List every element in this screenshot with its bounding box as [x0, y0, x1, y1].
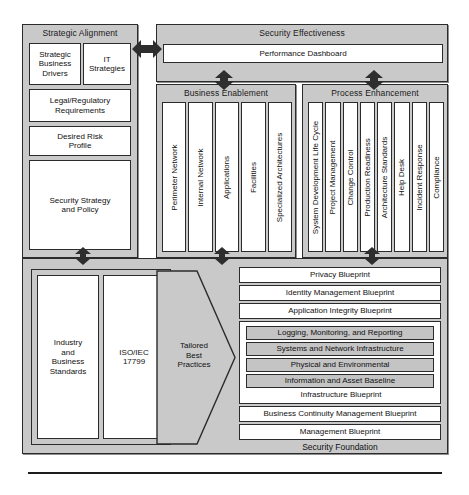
infrastructure-child-2[interactable]: Physical and Environmental — [246, 358, 434, 372]
blueprint-item-label-0: Privacy Blueprint — [310, 270, 370, 280]
process-enhancement-item-label-3: Production Readiness — [363, 138, 372, 216]
blueprint-stack: Privacy BlueprintIdentity Management Blu… — [239, 267, 441, 447]
process-enhancement-item-1[interactable]: Project Management — [325, 102, 340, 252]
connector-arrow-down-business-enablement — [211, 70, 237, 90]
blueprint-item-label-2: Application Integrity Blueprint — [288, 306, 392, 316]
connector-arrow-horizontal-strategic — [132, 36, 162, 62]
process-enhancement-item-4[interactable]: Architecture Standards — [377, 102, 392, 252]
infrastructure-blueprint-box[interactable]: Logging, Monitoring, and ReportingSystem… — [239, 321, 441, 404]
infrastructure-child-3[interactable]: Information and Asset Baseline — [246, 374, 434, 388]
business-enablement-item-3[interactable]: Facilities — [241, 102, 265, 252]
business-enablement-panel: Business Enablement Perimeter NetworkInt… — [156, 84, 296, 258]
strategic-business-drivers-label: StrategicBusinessDrivers — [39, 50, 71, 79]
iso-iec-17799-label: ISO/IEC17799 — [119, 348, 148, 367]
performance-dashboard-label: Performance Dashboard — [259, 49, 346, 59]
desired-risk-profile-label: Desired RiskProfile — [57, 132, 102, 151]
process-enhancement-item-label-6: Incident Response — [415, 144, 424, 210]
business-enablement-item-2[interactable]: Applications — [215, 102, 239, 252]
strategic-business-drivers-box[interactable]: StrategicBusinessDrivers — [29, 43, 81, 85]
process-enhancement-item-label-0: System Development Life Cycle — [311, 120, 320, 233]
infrastructure-child-label-3: Information and Asset Baseline — [285, 376, 395, 386]
it-strategies-box[interactable]: ITStrategies — [83, 43, 131, 85]
blueprint-item-label-1: Identity Management Blueprint — [286, 288, 395, 298]
connector-arrow-down-be-foundation — [211, 247, 233, 265]
business-enablement-item-label-4: Specialized Architectures — [275, 132, 284, 221]
connector-arrow-down-strategic-foundation — [72, 247, 94, 265]
infrastructure-child-label-2: Physical and Environmental — [291, 360, 390, 370]
footer-rule — [28, 472, 442, 474]
tailored-best-practices-label: TailoredBestPractices — [178, 341, 211, 369]
process-enhancement-item-5[interactable]: Help Desk — [394, 102, 409, 252]
connector-arrow-down-pe-foundation — [361, 247, 383, 265]
infrastructure-child-label-1: Systems and Network Infrastructure — [276, 344, 403, 354]
blueprint-bottom-item-label-1: Management Blueprint — [300, 427, 381, 437]
desired-risk-profile-box[interactable]: Desired RiskProfile — [29, 126, 131, 156]
security-strategy-and-policy-box[interactable]: Security Strategyand Policy — [29, 160, 131, 250]
business-enablement-item-label-0: Perimeter Network — [170, 144, 179, 210]
infrastructure-child-1[interactable]: Systems and Network Infrastructure — [246, 342, 434, 356]
performance-dashboard-box[interactable]: Performance Dashboard — [163, 44, 443, 63]
business-enablement-item-label-2: Applications — [222, 155, 231, 198]
legal-regulatory-requirements-box[interactable]: Legal/RegulatoryRequirements — [29, 89, 131, 122]
process-enhancement-item-label-2: Change Control — [346, 149, 355, 205]
process-enhancement-item-label-7: Compliance — [432, 156, 441, 198]
process-enhancement-item-6[interactable]: Incident Response — [412, 102, 427, 252]
business-enablement-item-4[interactable]: Specialized Architectures — [268, 102, 292, 252]
security-effectiveness-panel: Security Effectiveness Performance Dashb… — [156, 24, 448, 82]
security-effectiveness-title: Security Effectiveness — [157, 25, 447, 39]
blueprint-bottom-item-0[interactable]: Business Continuity Management Blueprint — [239, 406, 441, 422]
process-enhancement-item-3[interactable]: Production Readiness — [360, 102, 375, 252]
security-foundation-label: Security Foundation — [239, 442, 441, 452]
blueprint-bottom-item-label-0: Business Continuity Management Blueprint — [264, 409, 417, 419]
strategic-alignment-title: Strategic Alignment — [23, 25, 137, 39]
process-enhancement-item-label-4: Architecture Standards — [380, 136, 389, 217]
blueprint-bottom-item-1[interactable]: Management Blueprint — [239, 424, 441, 440]
standards-group: IndustryandBusinessStandards ISO/IEC1779… — [31, 269, 171, 445]
it-strategies-label: ITStrategies — [89, 55, 125, 74]
infrastructure-child-0[interactable]: Logging, Monitoring, and Reporting — [246, 326, 434, 340]
industry-business-standards-box[interactable]: IndustryandBusinessStandards — [37, 275, 99, 439]
tailored-best-practices-label-wrap: TailoredBestPractices — [163, 341, 225, 370]
process-enhancement-item-label-5: Help Desk — [397, 159, 406, 196]
infrastructure-child-label-0: Logging, Monitoring, and Reporting — [278, 328, 403, 338]
business-enablement-item-label-1: Internal Network — [196, 148, 205, 206]
process-enhancement-panel: Process Enhancement System Development L… — [302, 84, 448, 258]
process-enhancement-item-7[interactable]: Compliance — [429, 102, 444, 252]
blueprint-item-2[interactable]: Application Integrity Blueprint — [239, 303, 441, 319]
business-enablement-item-0[interactable]: Perimeter Network — [162, 102, 186, 252]
process-enhancement-item-2[interactable]: Change Control — [343, 102, 358, 252]
strategic-alignment-panel: Strategic Alignment StrategicBusinessDri… — [22, 24, 138, 258]
security-strategy-and-policy-label: Security Strategyand Policy — [50, 196, 111, 215]
connector-arrow-down-process-enhancement — [361, 70, 387, 90]
industry-business-standards-label: IndustryandBusinessStandards — [50, 338, 86, 376]
business-enablement-item-1[interactable]: Internal Network — [188, 102, 212, 252]
process-enhancement-item-label-1: Project Management — [328, 140, 337, 214]
infrastructure-blueprint-label: Infrastructure Blueprint — [240, 390, 442, 400]
security-foundation-panel: IndustryandBusinessStandards ISO/IEC1779… — [22, 258, 448, 454]
blueprint-item-0[interactable]: Privacy Blueprint — [239, 267, 441, 283]
process-enhancement-item-0[interactable]: System Development Life Cycle — [308, 102, 323, 252]
legal-regulatory-requirements-label: Legal/RegulatoryRequirements — [50, 96, 110, 115]
business-enablement-item-label-3: Facilities — [249, 161, 258, 192]
blueprint-item-1[interactable]: Identity Management Blueprint — [239, 285, 441, 301]
